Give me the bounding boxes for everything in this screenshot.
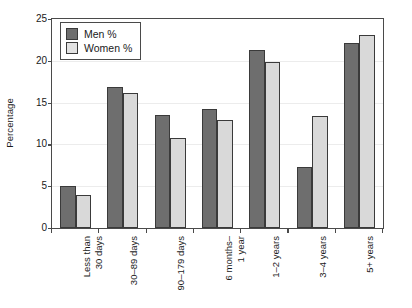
- x-tick-label: 3–4 years: [317, 235, 330, 308]
- x-tick-mark: [51, 228, 52, 233]
- bar: [249, 50, 265, 228]
- x-tick-label: Less than 30 days: [81, 235, 94, 308]
- bar: [123, 93, 139, 228]
- legend-item: Women %: [66, 41, 132, 55]
- legend-item: Men %: [66, 27, 132, 41]
- legend: Men %Women %: [60, 22, 141, 60]
- bar: [359, 35, 375, 228]
- x-tick-mark: [98, 228, 99, 233]
- y-axis-tick-labels: 0510152025: [0, 0, 52, 308]
- bar: [202, 109, 218, 228]
- x-tick-label: 90–179 days: [175, 235, 188, 308]
- bar: [312, 116, 328, 228]
- bar-chart: Percentage 0510152025 Less than 30 days3…: [0, 0, 412, 308]
- x-axis-tick-labels: Less than 30 days30–89 days90–179 days6 …: [51, 228, 384, 308]
- bar: [60, 186, 76, 228]
- x-tick-mark: [240, 228, 241, 233]
- y-tick-mark: [48, 144, 52, 145]
- y-tick-label: 5: [41, 180, 47, 191]
- y-tick-label: 10: [36, 138, 47, 149]
- bar: [217, 120, 233, 228]
- x-tick-label: 1–2 years: [270, 235, 283, 308]
- bar: [170, 138, 186, 228]
- y-tick-label: 20: [36, 54, 47, 65]
- x-tick-mark: [193, 228, 194, 233]
- x-tick-label: 30–89 days: [128, 235, 141, 308]
- bar-group: [147, 19, 194, 228]
- y-tick-label: 15: [36, 96, 47, 107]
- y-tick-mark: [48, 186, 52, 187]
- x-tick-label: 6 months– 1 year: [223, 235, 236, 308]
- x-tick-mark: [287, 228, 288, 233]
- legend-label: Women %: [84, 42, 132, 54]
- bar-group: [241, 19, 288, 228]
- legend-swatch-icon: [66, 42, 78, 54]
- y-tick-mark: [48, 103, 52, 104]
- bar-group: [336, 19, 383, 228]
- x-tick-mark: [335, 228, 336, 233]
- bar: [344, 43, 360, 228]
- x-tick-label: 5+ years: [364, 235, 377, 308]
- y-tick-label: 25: [36, 13, 47, 24]
- y-tick-label: 0: [41, 222, 47, 233]
- bar-group: [288, 19, 335, 228]
- bar-group: [194, 19, 241, 228]
- bar: [107, 87, 123, 228]
- x-tick-mark: [146, 228, 147, 233]
- y-tick-mark: [48, 19, 52, 20]
- bar: [265, 62, 281, 228]
- x-tick-mark: [382, 228, 383, 233]
- legend-label: Men %: [84, 28, 117, 40]
- bar: [297, 167, 313, 228]
- bar: [155, 115, 171, 228]
- y-tick-mark: [48, 61, 52, 62]
- bar: [76, 195, 92, 228]
- legend-swatch-icon: [66, 28, 78, 40]
